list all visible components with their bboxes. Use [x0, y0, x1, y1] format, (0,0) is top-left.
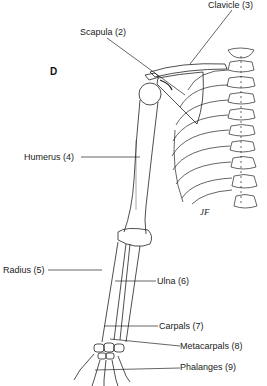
artist-signature: JF [200, 207, 210, 217]
label-ulna: Ulna (6) [157, 276, 189, 286]
forearm-bones [102, 242, 140, 342]
label-radius: Radius (5) [3, 265, 45, 275]
rib-cage [172, 70, 232, 204]
label-metacarpals: Metacarpals (8) [180, 341, 243, 351]
humerus-bone [118, 83, 161, 246]
skeleton-arm-illustration: JF [0, 0, 267, 386]
carpal-bones [94, 343, 124, 359]
label-scapula: Scapula (2) [80, 27, 126, 37]
shoulder-girdle [145, 64, 227, 124]
label-phalanges: Phalanges (9) [180, 362, 236, 372]
panel-letter: D [50, 66, 57, 77]
label-humerus: Humerus (4) [24, 152, 74, 162]
label-clavicle: Clavicle (3) [208, 0, 253, 10]
label-carpals: Carpals (7) [159, 321, 204, 331]
spine [227, 48, 257, 208]
